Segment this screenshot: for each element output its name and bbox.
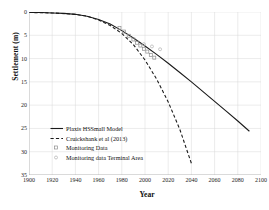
x-tick-label: 1980 bbox=[116, 177, 128, 183]
solid-line-key-icon bbox=[50, 124, 65, 133]
x-tick-label: 1900 bbox=[23, 177, 35, 183]
legend-label: Plaxis HSSmall Model bbox=[65, 125, 123, 132]
legend-item: Monitoring data Terminal Area bbox=[50, 153, 160, 163]
square-marker-key-icon bbox=[50, 143, 65, 152]
x-tick-label: 2100 bbox=[255, 177, 267, 183]
legend-label: Monitoring data Terminal Area bbox=[65, 154, 143, 161]
x-tick-label: 2080 bbox=[232, 177, 244, 183]
x-tick-label: 1960 bbox=[93, 177, 105, 183]
legend-label: Cruickshank et al (2013) bbox=[65, 135, 127, 142]
series-0 bbox=[29, 12, 249, 131]
settlement-vs-year-chart: Settlement (m) Year 05101520253035 19001… bbox=[0, 0, 269, 210]
y-tick-label: 25 bbox=[21, 125, 27, 131]
y-tick-label: 0 bbox=[24, 9, 27, 15]
y-tick-label: 15 bbox=[21, 79, 27, 85]
legend-item: Cruickshank et al (2013) bbox=[50, 134, 160, 144]
circle-marker-key-icon bbox=[50, 153, 65, 162]
y-tick-label: 20 bbox=[21, 102, 27, 108]
x-tick-label: 2020 bbox=[162, 177, 174, 183]
legend-item: Monitoring Data bbox=[50, 143, 160, 153]
x-tick-label: 2040 bbox=[185, 177, 197, 183]
y-tick-label: 30 bbox=[21, 149, 27, 155]
x-tick-label: 1920 bbox=[46, 177, 58, 183]
chart-legend: Plaxis HSSmall ModelCruickshank et al (2… bbox=[50, 124, 160, 162]
legend-item: Plaxis HSSmall Model bbox=[50, 124, 160, 134]
y-axis-title: Settlement (m) bbox=[11, 2, 20, 112]
dashed-line-key-icon bbox=[50, 134, 65, 143]
y-tick-label: 10 bbox=[21, 56, 27, 62]
x-tick-label: 2000 bbox=[139, 177, 151, 183]
x-axis-title: Year bbox=[28, 190, 266, 199]
x-tick-label: 2060 bbox=[209, 177, 221, 183]
y-tick-label: 5 bbox=[24, 32, 27, 38]
x-tick-label: 1940 bbox=[69, 177, 81, 183]
legend-label: Monitoring Data bbox=[65, 144, 107, 151]
